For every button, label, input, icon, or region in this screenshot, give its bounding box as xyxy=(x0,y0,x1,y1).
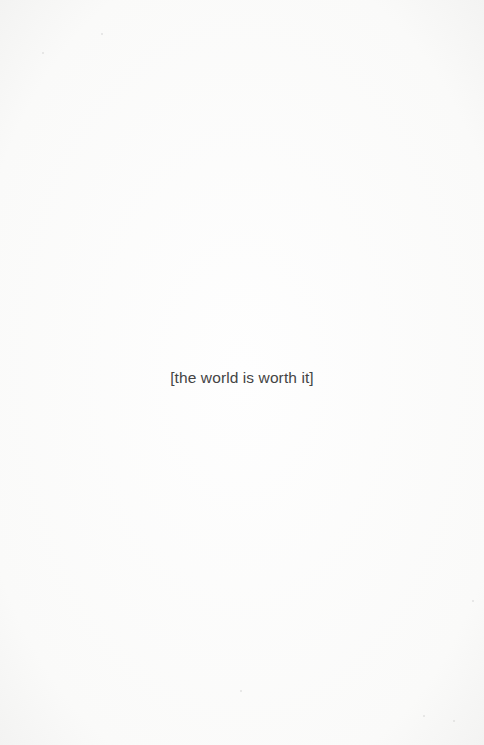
paper-speck xyxy=(423,715,425,717)
book-page: [the world is worth it] xyxy=(0,0,484,745)
paper-speck xyxy=(453,720,455,722)
paper-speck xyxy=(101,33,103,35)
paper-speck xyxy=(472,600,474,602)
paper-speck xyxy=(42,52,44,54)
epigraph-text: [the world is worth it] xyxy=(0,368,484,388)
paper-speck xyxy=(240,690,242,692)
